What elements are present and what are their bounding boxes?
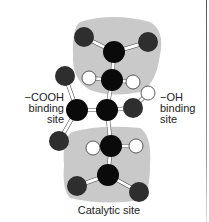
atom-dark [138,32,158,52]
atom-white [86,141,100,155]
page-edge-divider [206,0,207,222]
atom-white [82,71,96,85]
atom-black [66,99,88,121]
atom-white [129,139,143,153]
atom-black [96,99,118,121]
atom-black [101,69,123,91]
atom-white [126,75,140,89]
label-line: site [160,114,204,125]
atom-dark [49,131,69,151]
atom-white [141,86,155,100]
atom-dark [123,98,143,118]
label-line: site [20,114,64,125]
cooh-binding-site-label: −COOH binding site [20,92,64,125]
atom-black [100,135,122,157]
atom-black [103,41,125,63]
atom-dark [129,182,149,202]
atom-dark [74,27,94,47]
catalytic-site-label: Catalytic site [64,205,154,216]
oh-binding-site-label: −OH binding site [160,92,204,125]
enzyme-active-site-diagram: −COOH binding site −OH binding site Cata… [0,0,209,222]
atom-dark [67,176,87,196]
atom-black [97,164,119,186]
atom-dark [55,66,75,86]
